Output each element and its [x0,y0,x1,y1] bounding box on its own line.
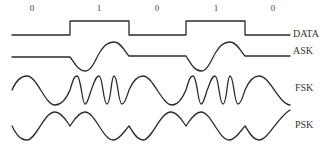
fsk-waveform [12,76,290,105]
ask-waveform [12,42,290,71]
label-ask: ASK [293,46,313,56]
data-waveform [12,21,290,35]
modulation-diagram: 0 1 0 1 0 DATA ASK FSK PSK [0,0,323,153]
label-data: DATA [293,29,319,39]
label-psk: PSK [295,120,313,130]
psk-waveform [12,110,290,140]
waveforms [0,0,323,153]
label-fsk: FSK [295,83,313,93]
